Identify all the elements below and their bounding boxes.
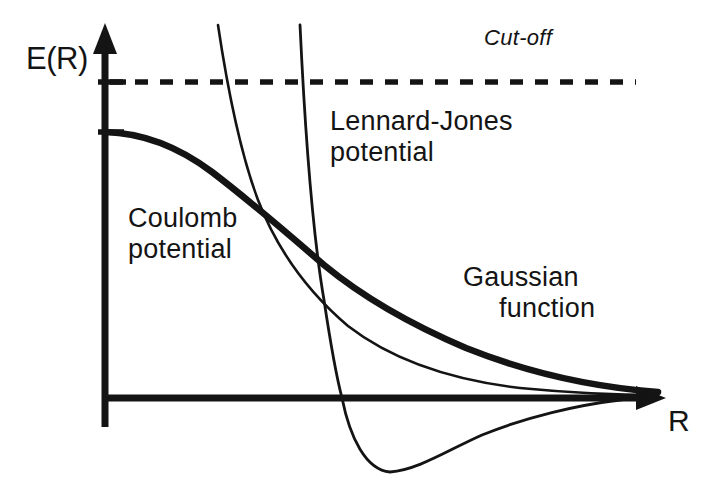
coulomb-label-line2: potential	[128, 234, 232, 264]
cutoff-label: Cut-off	[484, 25, 552, 51]
distance-axis-label: R	[668, 404, 690, 439]
gaussian-label-line1: Gaussian	[463, 262, 579, 292]
lennard-jones-label-line2: potential	[330, 137, 434, 167]
potential-energy-figure: E(R) R Cut-off Lennard-Jonespotential Co…	[0, 0, 714, 495]
plot-canvas	[0, 0, 714, 495]
energy-axis-arrowhead	[93, 23, 117, 54]
lennard-jones-label-line1: Lennard-Jones	[330, 106, 513, 136]
lennard-jones-potential-curve	[300, 25, 658, 472]
gaussian-label-line2: function	[463, 293, 595, 324]
coulomb-label: Coulombpotential	[128, 203, 237, 266]
gaussian-label: Gaussianfunction	[463, 262, 595, 325]
lennard-jones-label: Lennard-Jonespotential	[330, 106, 513, 169]
energy-axis-label: E(R)	[26, 41, 88, 77]
coulomb-label-line1: Coulomb	[128, 203, 237, 233]
